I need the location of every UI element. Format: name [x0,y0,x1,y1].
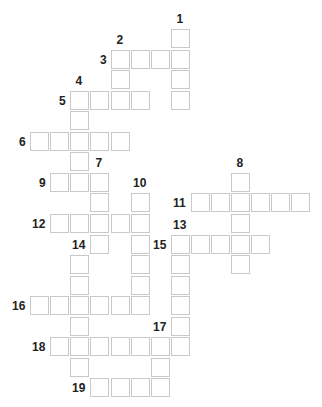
crossword-cell[interactable] [90,337,109,356]
crossword-cell[interactable] [70,132,89,151]
crossword-cell[interactable] [90,296,109,315]
clue-number-18: 18 [32,341,45,353]
crossword-cell[interactable] [271,193,290,212]
crossword-cell[interactable] [70,214,89,233]
clue-number-8: 8 [237,157,244,169]
crossword-grid: 12345678910111213141516171819 [0,0,322,407]
crossword-cell[interactable] [90,378,109,397]
crossword-cell[interactable] [131,235,150,254]
crossword-cell[interactable] [111,378,130,397]
clue-number-17: 17 [153,321,166,333]
crossword-cell[interactable] [171,91,190,110]
crossword-cell[interactable] [50,337,69,356]
clue-number-3: 3 [100,54,107,66]
crossword-cell[interactable] [70,337,89,356]
crossword-cell[interactable] [70,111,89,130]
clue-number-1: 1 [177,13,184,25]
clue-number-6: 6 [19,136,26,148]
crossword-cell[interactable] [30,296,49,315]
crossword-cell[interactable] [171,337,190,356]
crossword-cell[interactable] [70,152,89,171]
crossword-cell[interactable] [90,214,109,233]
crossword-cell[interactable] [90,132,109,151]
crossword-cell[interactable] [131,378,150,397]
crossword-cell[interactable] [70,173,89,192]
clue-number-11: 11 [173,197,186,209]
crossword-cell[interactable] [231,173,250,192]
crossword-cell[interactable] [70,276,89,295]
crossword-cell[interactable] [111,296,130,315]
crossword-cell[interactable] [151,50,170,69]
crossword-cell[interactable] [50,173,69,192]
crossword-cell[interactable] [211,193,230,212]
crossword-cell[interactable] [291,193,310,212]
clue-number-10: 10 [133,177,146,189]
crossword-cell[interactable] [171,235,190,254]
crossword-cell[interactable] [111,132,130,151]
crossword-cell[interactable] [231,255,250,274]
crossword-cell[interactable] [131,255,150,274]
crossword-cell[interactable] [131,193,150,212]
clue-number-7: 7 [96,157,103,169]
crossword-cell[interactable] [111,214,130,233]
crossword-cell[interactable] [191,193,210,212]
crossword-cell[interactable] [171,317,190,336]
crossword-cell[interactable] [50,132,69,151]
clue-number-5: 5 [59,95,66,107]
crossword-cell[interactable] [211,235,230,254]
clue-number-16: 16 [12,300,25,312]
crossword-cell[interactable] [171,296,190,315]
clue-number-15: 15 [153,239,166,251]
clue-number-14: 14 [72,239,85,251]
clue-number-19: 19 [72,382,85,394]
crossword-cell[interactable] [111,91,130,110]
crossword-cell[interactable] [131,276,150,295]
crossword-cell[interactable] [191,235,210,254]
crossword-cell[interactable] [70,91,89,110]
crossword-cell[interactable] [70,255,89,274]
crossword-cell[interactable] [131,337,150,356]
crossword-cell[interactable] [70,296,89,315]
crossword-cell[interactable] [131,50,150,69]
crossword-cell[interactable] [171,70,190,89]
crossword-cell[interactable] [50,214,69,233]
crossword-cell[interactable] [111,50,130,69]
crossword-cell[interactable] [251,235,270,254]
crossword-cell[interactable] [171,276,190,295]
crossword-cell[interactable] [131,296,150,315]
clue-number-2: 2 [117,34,124,46]
crossword-cell[interactable] [231,214,250,233]
crossword-cell[interactable] [90,91,109,110]
clue-number-4: 4 [76,75,83,87]
crossword-cell[interactable] [171,50,190,69]
crossword-cell[interactable] [231,193,250,212]
clue-number-13: 13 [173,219,186,231]
crossword-cell[interactable] [70,317,89,336]
crossword-cell[interactable] [90,173,109,192]
crossword-cell[interactable] [111,70,130,89]
crossword-cell[interactable] [151,358,170,377]
crossword-cell[interactable] [50,296,69,315]
crossword-cell[interactable] [151,337,170,356]
crossword-cell[interactable] [111,337,130,356]
crossword-cell[interactable] [70,358,89,377]
crossword-cell[interactable] [151,378,170,397]
clue-number-9: 9 [39,177,46,189]
crossword-cell[interactable] [30,132,49,151]
clue-number-12: 12 [32,218,45,230]
crossword-cell[interactable] [131,91,150,110]
crossword-cell[interactable] [231,235,250,254]
crossword-cell[interactable] [171,29,190,48]
crossword-cell[interactable] [251,193,270,212]
crossword-cell[interactable] [90,193,109,212]
crossword-cell[interactable] [171,255,190,274]
crossword-cell[interactable] [131,214,150,233]
crossword-cell[interactable] [90,235,109,254]
